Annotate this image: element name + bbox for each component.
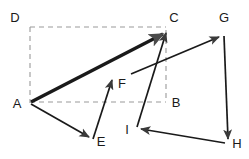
label-point-D: D (10, 10, 19, 25)
vector-diagram: D C G A B F E I H (0, 0, 249, 159)
label-point-F: F (118, 76, 126, 91)
label-point-B: B (172, 95, 181, 110)
label-point-H: H (232, 136, 241, 151)
label-point-I: I (125, 122, 129, 137)
label-point-A: A (13, 96, 22, 111)
label-point-G: G (219, 10, 229, 25)
label-point-C: C (169, 10, 178, 25)
label-point-E: E (97, 134, 106, 149)
